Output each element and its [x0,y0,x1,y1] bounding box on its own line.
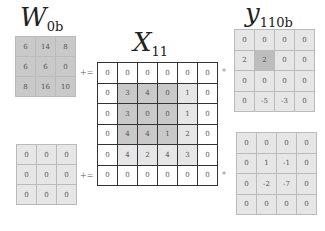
grid-cell: 16 [36,77,56,97]
grid-cell: 0 [237,195,257,216]
grid-cell: 0 [17,185,37,205]
grid-cell: 0 [295,71,315,92]
grid-cell: 0 [255,71,275,92]
y-label: y110b [245,0,293,28]
w-top-grid: 614866081610 [15,36,76,97]
grid-cell: 0 [297,195,317,216]
grid-cell: 3 [118,104,138,125]
grid-cell: 0 [17,165,37,185]
grid-cell: 14 [36,37,56,57]
grid-cell: 0 [98,145,118,166]
grid-cell: 6 [36,57,56,77]
y-label-sub: 110b [260,15,293,30]
grid-cell: 0 [178,166,198,187]
grid-cell: 6 [16,57,36,77]
grid-cell: 0 [275,30,295,51]
grid-cell: 2 [178,125,198,146]
grid-cell: 2 [255,51,275,72]
grid-cell: 4 [138,125,158,146]
star-top: * [222,68,226,77]
grid-cell: 1 [158,125,178,146]
x-label-main: X [133,27,152,57]
star-bottom: * [222,171,226,180]
grid-cell: 0 [275,51,295,72]
grid-cell: 0 [158,84,178,105]
grid-cell: 0 [118,166,138,187]
grid-cell: 0 [237,154,257,175]
grid-cell: 0 [138,104,158,125]
grid-cell: 0 [57,185,77,205]
grid-cell: 8 [56,37,76,57]
grid-cell: 2 [138,145,158,166]
grid-cell: 3 [118,84,138,105]
grid-cell: 0 [37,185,57,205]
grid-cell: 0 [235,92,255,113]
y-label-main: y [245,0,260,28]
grid-cell: 0 [198,145,218,166]
grid-cell: 1 [178,84,198,105]
grid-cell: 0 [98,125,118,146]
grid-cell: 0 [295,51,315,72]
grid-cell: 4 [118,125,138,146]
grid-cell: 0 [295,92,315,113]
w-label-sub: 0b [47,19,64,34]
grid-cell: 0 [237,133,257,154]
grid-cell: 0 [37,145,57,165]
x-label-sub: 11 [152,44,169,59]
grid-cell: 0 [257,133,277,154]
grid-cell: 0 [198,104,218,125]
grid-cell: 4 [158,145,178,166]
grid-cell: 0 [138,63,158,84]
grid-cell: 4 [138,84,158,105]
grid-cell: 0 [297,174,317,195]
x-input-grid: 000000034010030010044120042430000000 [97,62,218,186]
grid-cell: 0 [98,63,118,84]
grid-cell: -2 [257,174,277,195]
w-bottom-grid: 000000000 [16,144,77,205]
grid-cell: 0 [277,195,297,216]
grid-cell: -7 [277,174,297,195]
x-label: X11 [133,27,168,57]
grid-cell: 0 [158,166,178,187]
grid-cell: 0 [255,30,275,51]
grid-cell: 0 [235,30,255,51]
grid-cell: 0 [297,154,317,175]
y-top-grid: 0000220000000-5-30 [234,29,315,112]
w-label-main: W [20,2,47,32]
grid-cell: 0 [275,71,295,92]
grid-cell: 0 [37,165,57,185]
grid-cell: 0 [178,63,198,84]
grid-cell: 0 [98,84,118,105]
grid-cell: 0 [158,63,178,84]
grid-cell: 0 [17,145,37,165]
grid-cell: 0 [158,104,178,125]
grid-cell: 0 [118,63,138,84]
grid-cell: 0 [198,84,218,105]
grid-cell: 8 [16,77,36,97]
grid-cell: 0 [297,133,317,154]
grid-cell: 0 [198,63,218,84]
grid-cell: 0 [98,104,118,125]
w-label: W0b [20,2,63,32]
grid-cell: -1 [277,154,297,175]
grid-cell: 0 [235,71,255,92]
grid-cell: 0 [257,195,277,216]
y-bottom-grid: 000001-100-2-700000 [236,132,317,215]
grid-cell: -5 [255,92,275,113]
grid-cell: 0 [295,30,315,51]
plus-equals-top: += [80,68,93,77]
grid-cell: 0 [138,166,158,187]
grid-cell: -3 [275,92,295,113]
grid-cell: 0 [98,166,118,187]
grid-cell: 6 [16,37,36,57]
grid-cell: 1 [257,154,277,175]
grid-cell: 0 [198,125,218,146]
grid-cell: 0 [277,133,297,154]
grid-cell: 0 [237,174,257,195]
grid-cell: 10 [56,77,76,97]
grid-cell: 0 [57,165,77,185]
grid-cell: 2 [235,51,255,72]
grid-cell: 4 [118,145,138,166]
grid-cell: 0 [56,57,76,77]
plus-equals-bottom: += [80,171,93,180]
